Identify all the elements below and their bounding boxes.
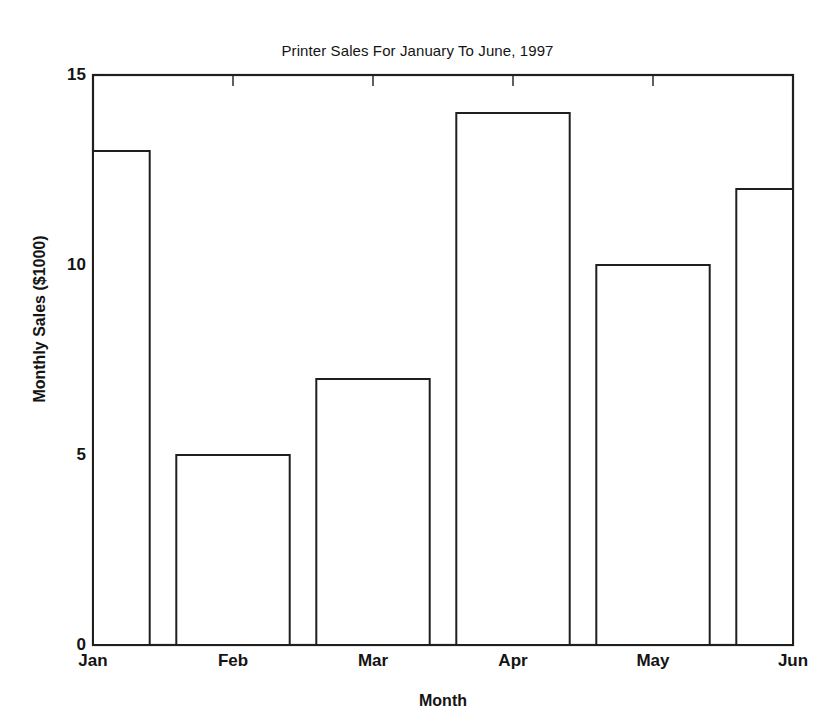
bar-jun[interactable] xyxy=(736,189,793,645)
x-axis-ticks-top xyxy=(233,75,653,86)
figure-canvas: Printer Sales For January To June, 1997 … xyxy=(0,0,835,723)
bar-may[interactable] xyxy=(596,265,709,645)
bar-mar[interactable] xyxy=(316,379,429,645)
bar-apr[interactable] xyxy=(456,113,569,645)
bar-jan[interactable] xyxy=(93,151,150,645)
x-axis-ticks-bottom xyxy=(233,634,653,645)
bar-feb[interactable] xyxy=(176,455,289,645)
bar-series xyxy=(93,113,793,645)
plot-area xyxy=(0,0,835,723)
